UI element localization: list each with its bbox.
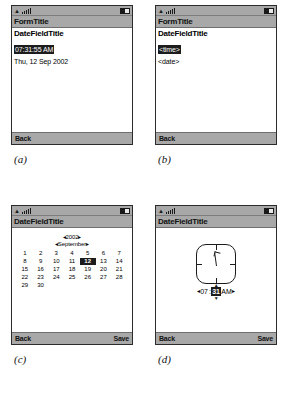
- status-bar: ▲: [156, 206, 276, 216]
- battery-icon: [264, 208, 274, 214]
- calendar-day-cell[interactable]: 19: [80, 266, 96, 273]
- softkey-bar: Back: [12, 132, 132, 144]
- battery-icon: [264, 8, 274, 14]
- calendar-day-cell[interactable]: 5: [80, 250, 96, 257]
- time-spinner-row: ◂ 07 : ▲ 31 ▼ AM ▸: [197, 287, 235, 296]
- form-title: FormTitle: [12, 16, 132, 28]
- softkey-bar: Back Save: [156, 332, 276, 344]
- panel-caption-d: (d): [158, 353, 171, 365]
- month-next-arrow-icon[interactable]: ▸: [86, 241, 89, 247]
- calendar-month-nav: ◂September▸: [12, 241, 132, 248]
- calendar-day-cell[interactable]: 28: [111, 274, 127, 281]
- softkey-back[interactable]: Back: [159, 333, 175, 344]
- calendar-day-cell[interactable]: 2: [33, 250, 49, 257]
- calendar-day-cell[interactable]: 24: [48, 274, 64, 281]
- form-title: FormTitle: [156, 16, 276, 28]
- calendar-day-cell[interactable]: 18: [64, 266, 80, 273]
- screen-content-a: DateFieldTitle 07:31:55 AM Thu, 12 Sep 2…: [12, 28, 132, 132]
- spinner-down-icon[interactable]: ▼: [214, 296, 219, 300]
- date-field-title: DateFieldTitle: [156, 216, 276, 228]
- panel-caption-b: (b): [158, 153, 171, 165]
- calendar-day-cell[interactable]: 16: [33, 266, 49, 273]
- status-bar: ▲: [12, 206, 132, 216]
- minute-value: 31: [212, 288, 220, 295]
- time-next-arrow-icon[interactable]: ▸: [232, 287, 235, 296]
- calendar-day-cell[interactable]: 17: [48, 266, 64, 273]
- status-bar: ▲: [156, 6, 276, 16]
- panel-a: ▲ FormTitle DateFieldTitle 07:31:55 AM T…: [0, 0, 144, 197]
- phone-device-d: ▲ DateFieldTitle ◂: [155, 205, 277, 345]
- calendar-day-cell[interactable]: 1: [17, 250, 33, 257]
- calendar-year-nav: ◂2002▸: [12, 234, 132, 241]
- date-placeholder[interactable]: <date>: [156, 56, 276, 66]
- calendar-day-cell[interactable]: 27: [96, 274, 112, 281]
- calendar-day-cell[interactable]: 25: [64, 274, 80, 281]
- softkey-back[interactable]: Back: [15, 133, 31, 144]
- phone-device-a: ▲ FormTitle DateFieldTitle 07:31:55 AM T…: [11, 5, 133, 145]
- panel-d: ▲ DateFieldTitle ◂: [144, 200, 288, 397]
- calendar-day-cell[interactable]: 7: [111, 250, 127, 257]
- panel-b: ▲ FormTitle DateFieldTitle <time> <date>…: [144, 0, 288, 197]
- phone-device-b: ▲ FormTitle DateFieldTitle <time> <date>…: [155, 5, 277, 145]
- calendar-day-cell[interactable]: 21: [111, 266, 127, 273]
- calendar-day-cell[interactable]: 9: [33, 258, 49, 265]
- softkey-save[interactable]: Save: [257, 333, 273, 344]
- hour-segment[interactable]: 07: [200, 287, 209, 296]
- date-field-title: DateFieldTitle: [156, 28, 276, 38]
- softkey-bar: Back Save: [12, 332, 132, 344]
- panel-caption-a: (a): [14, 153, 27, 165]
- calendar-day-cell[interactable]: 30: [33, 282, 49, 289]
- signal-bars-icon: ▲: [14, 207, 31, 214]
- figure-panel-grid: ▲ FormTitle DateFieldTitle 07:31:55 AM T…: [0, 0, 288, 397]
- clock-tick-3: [230, 264, 235, 265]
- clock-tick-9: [197, 264, 202, 265]
- year-next-arrow-icon[interactable]: ▸: [78, 234, 81, 240]
- softkey-save[interactable]: Save: [113, 333, 129, 344]
- clock-hand-tip: [213, 251, 220, 257]
- battery-icon: [120, 8, 130, 14]
- calendar-day-cell[interactable]: 11: [64, 258, 80, 265]
- screen-content-d: ◂ 07 : ▲ 31 ▼ AM ▸: [156, 228, 276, 332]
- minute-segment[interactable]: ▲ 31 ▼: [211, 287, 221, 296]
- calendar-month-label: September: [58, 241, 86, 247]
- calendar-day-cell[interactable]: 4: [64, 250, 80, 257]
- status-bar: ▲: [12, 6, 132, 16]
- calendar-day-cell[interactable]: 10: [48, 258, 64, 265]
- date-field-title: DateFieldTitle: [12, 28, 132, 38]
- calendar-day-cell[interactable]: 26: [80, 274, 96, 281]
- signal-bars-icon: ▲: [158, 207, 175, 214]
- analog-clock-face-icon: [196, 244, 236, 284]
- date-field-title: DateFieldTitle: [12, 216, 132, 228]
- phone-device-c: ▲ DateFieldTitle ◂2002▸ ◂September▸ 1234…: [11, 205, 133, 345]
- calendar-day-cell[interactable]: 3: [48, 250, 64, 257]
- panel-c: ▲ DateFieldTitle ◂2002▸ ◂September▸ 1234…: [0, 200, 144, 397]
- calendar-day-cell[interactable]: 23: [33, 274, 49, 281]
- calendar-day-cell[interactable]: 20: [96, 266, 112, 273]
- calendar-day-cell[interactable]: 29: [17, 282, 33, 289]
- calendar-day-grid: 1234567891011121314151617181920212223242…: [17, 250, 127, 289]
- battery-icon: [120, 208, 130, 214]
- softkey-back[interactable]: Back: [15, 333, 31, 344]
- softkey-back[interactable]: Back: [159, 133, 175, 144]
- date-value[interactable]: Thu, 12 Sep 2002: [12, 56, 132, 66]
- calendar-day-cell[interactable]: 8: [17, 258, 33, 265]
- signal-bars-icon: ▲: [14, 7, 31, 14]
- panel-caption-c: (c): [14, 353, 26, 365]
- calendar-day-cell[interactable]: 13: [96, 258, 112, 265]
- spinner-up-icon[interactable]: ▲: [214, 283, 219, 287]
- selected-time-placeholder[interactable]: <time>: [158, 45, 181, 54]
- calendar-day-cell[interactable]: 15: [17, 266, 33, 273]
- softkey-bar: Back: [156, 132, 276, 144]
- calendar-widget: ◂2002▸ ◂September▸ 123456789101112131415…: [12, 228, 132, 289]
- calendar-day-cell[interactable]: 22: [17, 274, 33, 281]
- calendar-day-cell[interactable]: 14: [111, 258, 127, 265]
- calendar-day-cell[interactable]: 6: [96, 250, 112, 257]
- clock-tick-12: [216, 245, 217, 250]
- screen-content-b: DateFieldTitle <time> <date>: [156, 28, 276, 132]
- selected-time-value[interactable]: 07:31:55 AM: [14, 45, 54, 54]
- calendar-day-cell[interactable]: 12: [80, 258, 96, 265]
- screen-content-c: ◂2002▸ ◂September▸ 123456789101112131415…: [12, 228, 132, 332]
- meridiem-segment[interactable]: AM: [221, 287, 232, 296]
- time-picker-widget: ◂ 07 : ▲ 31 ▼ AM ▸: [156, 228, 276, 296]
- signal-bars-icon: ▲: [158, 7, 175, 14]
